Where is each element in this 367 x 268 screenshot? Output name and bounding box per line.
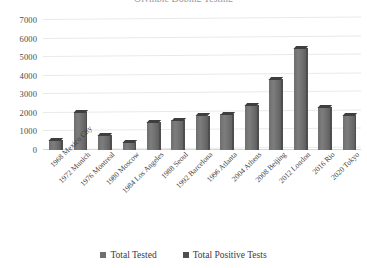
bar-top-face xyxy=(343,113,358,116)
bar-1996-atlanta xyxy=(220,114,232,150)
legend-item-0[interactable]: Total Tested xyxy=(100,250,156,260)
bar-side-face xyxy=(355,115,357,150)
bar-front-face xyxy=(318,107,330,150)
legend-label: Total Positive Tests xyxy=(193,250,267,260)
y-axis-tick-3000: 3000 xyxy=(20,90,37,99)
bar-front-face xyxy=(98,135,110,150)
legend-label: Total Tested xyxy=(110,250,156,260)
bar-front-face xyxy=(269,79,281,150)
x-axis-labels: 1968 Mexico City1972 Munich1976 Montreal… xyxy=(43,150,361,232)
bar-front-face xyxy=(220,114,232,150)
legend-item-1[interactable]: Total Positive Tests xyxy=(183,250,267,260)
bar-1992-barcelona xyxy=(196,116,208,150)
bar-side-face xyxy=(232,114,234,150)
bar-top-face xyxy=(294,46,309,49)
bar-front-face xyxy=(245,105,257,150)
bar-chart: Olympic Doping Testing 70006000500040003… xyxy=(0,0,367,268)
bar-2012-london xyxy=(294,48,306,150)
bar-top-face xyxy=(220,112,235,115)
y-axis: 70006000500040003000200010000 xyxy=(0,20,40,150)
bar-front-face xyxy=(196,116,208,150)
legend-swatch-icon xyxy=(183,252,189,258)
y-axis-tick-2000: 2000 xyxy=(20,108,37,117)
bar-top-face xyxy=(74,110,89,113)
bar-1984-los-angeles xyxy=(147,122,159,150)
bar-front-face xyxy=(171,120,183,150)
y-axis-tick-1000: 1000 xyxy=(20,127,37,136)
bar-1976-montreal xyxy=(98,135,110,150)
bar-side-face xyxy=(281,79,283,150)
legend-swatch-icon xyxy=(100,252,106,258)
bar-2016-rio xyxy=(318,107,330,150)
bar-front-face xyxy=(343,115,355,150)
bar-side-face xyxy=(159,122,161,150)
bar-1968-mexico-city xyxy=(49,140,61,150)
x-axis-label-1968-mexico-city: 1968 Mexico City xyxy=(48,150,67,169)
bar-side-face xyxy=(110,135,112,150)
bar-front-face xyxy=(123,142,135,150)
bar-front-face xyxy=(294,48,306,150)
bar-2008-beijing xyxy=(269,79,281,150)
bar-side-face xyxy=(257,105,259,150)
bar-side-face xyxy=(208,116,210,150)
bar-front-face xyxy=(147,122,159,150)
y-axis-tick-5000: 5000 xyxy=(20,53,37,62)
chart-legend: Total TestedTotal Positive Tests xyxy=(0,250,367,260)
bar-side-face xyxy=(183,120,185,150)
bar-front-face xyxy=(49,140,61,150)
bar-2004-athens xyxy=(245,105,257,150)
bar-top-face xyxy=(147,120,162,123)
bar-side-face xyxy=(306,48,308,150)
bar-side-face xyxy=(330,107,332,150)
bar-1988-seoul xyxy=(171,120,183,150)
y-axis-tick-7000: 7000 xyxy=(20,16,37,25)
chart-title: Olympic Doping Testing xyxy=(0,0,367,2)
bar-1980-moscow xyxy=(123,142,135,150)
y-axis-tick-0: 0 xyxy=(33,146,37,155)
y-axis-tick-4000: 4000 xyxy=(20,71,37,80)
bar-top-face xyxy=(49,138,64,141)
bar-top-face xyxy=(171,118,186,121)
bar-2020-tokyo xyxy=(343,115,355,150)
bar-top-face xyxy=(123,140,138,143)
y-axis-tick-6000: 6000 xyxy=(20,34,37,43)
